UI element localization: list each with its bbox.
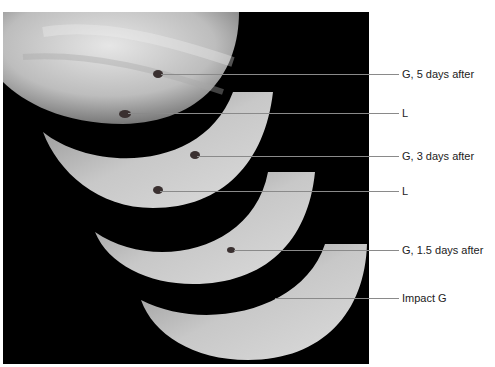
leader-line-g-5-days bbox=[161, 74, 399, 75]
label-l-second: L bbox=[402, 185, 408, 197]
leader-line-impact-g bbox=[275, 298, 399, 299]
leader-line-g-3-days bbox=[197, 156, 399, 157]
leader-line-l-1 bbox=[128, 113, 399, 114]
label-g-3-days-after: G, 3 days after bbox=[402, 150, 474, 162]
label-g-5-days-after: G, 5 days after bbox=[402, 68, 474, 80]
jupiter-image-panel bbox=[3, 12, 369, 364]
label-impact-g: Impact G bbox=[402, 292, 447, 304]
label-g-1-5-days-after: G, 1.5 days after bbox=[402, 244, 483, 256]
leader-line-g-1-5-days bbox=[234, 250, 399, 251]
planet-image-5-days bbox=[3, 12, 239, 124]
jupiter-sequence-illustration bbox=[3, 12, 369, 364]
leader-line-l-2 bbox=[160, 191, 399, 192]
label-l-first: L bbox=[402, 107, 408, 119]
